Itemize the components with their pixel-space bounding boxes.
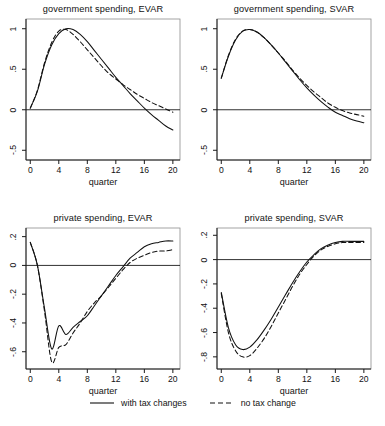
x-tick-label: 4 bbox=[49, 374, 69, 384]
panel-title: government spending, SVAR bbox=[217, 4, 371, 14]
y-tick-label: -.2 bbox=[198, 275, 210, 293]
legend-swatch-solid-icon bbox=[89, 399, 115, 407]
chart-panel-2: government spending, SVAR-.50.5104812162… bbox=[0, 0, 385, 426]
y-tick-label: 0 bbox=[7, 256, 19, 274]
y-tick-label: -.4 bbox=[7, 314, 19, 332]
x-tick-label: 0 bbox=[20, 165, 40, 175]
legend-entry-dashed: no tax change bbox=[209, 398, 296, 408]
y-tick-label: -.5 bbox=[198, 141, 210, 159]
plot-frame bbox=[26, 228, 180, 369]
x-tick-label: 12 bbox=[106, 165, 126, 175]
impulse-response-figure: government spending, EVAR-.50.5104812162… bbox=[0, 0, 385, 426]
series-line-dashed bbox=[221, 242, 364, 357]
y-tick-label: .5 bbox=[198, 60, 210, 78]
panel-plot-area bbox=[0, 0, 385, 426]
series-line-solid bbox=[221, 29, 364, 122]
chart-panel-1: government spending, EVAR-.50.5104812162… bbox=[0, 0, 385, 426]
x-tick-label: 12 bbox=[106, 374, 126, 384]
x-tick-label: 8 bbox=[268, 165, 288, 175]
panel-title: government spending, EVAR bbox=[26, 4, 180, 14]
x-axis-label: quarter bbox=[26, 386, 180, 396]
panel-title: private spending, SVAR bbox=[217, 213, 371, 223]
legend-label-solid: with tax changes bbox=[121, 398, 187, 408]
x-tick-label: 0 bbox=[20, 374, 40, 384]
x-tick-label: 4 bbox=[240, 165, 260, 175]
y-tick-label: .2 bbox=[198, 226, 210, 244]
y-tick-label: -.6 bbox=[7, 343, 19, 361]
y-tick-label: 1 bbox=[198, 20, 210, 38]
plot-frame bbox=[26, 19, 180, 160]
legend-label-dashed: no tax change bbox=[241, 398, 296, 408]
y-tick-label: -.8 bbox=[198, 348, 210, 366]
panel-title: private spending, EVAR bbox=[26, 213, 180, 223]
series-line-dashed bbox=[30, 242, 173, 363]
panel-plot-area bbox=[0, 0, 385, 426]
y-tick-label: 1 bbox=[7, 20, 19, 38]
panel-plot-area bbox=[0, 0, 385, 426]
x-tick-label: 0 bbox=[211, 374, 231, 384]
x-tick-label: 12 bbox=[297, 374, 317, 384]
x-axis-label: quarter bbox=[217, 386, 371, 396]
x-tick-label: 16 bbox=[134, 374, 154, 384]
x-tick-label: 20 bbox=[354, 374, 374, 384]
y-tick-label: 0 bbox=[198, 251, 210, 269]
x-tick-label: 8 bbox=[268, 374, 288, 384]
plot-frame bbox=[217, 228, 371, 369]
y-tick-label: -.6 bbox=[198, 324, 210, 342]
x-tick-label: 20 bbox=[163, 165, 183, 175]
figure-legend: with tax changes no tax change bbox=[0, 398, 385, 408]
y-tick-label: -.2 bbox=[7, 285, 19, 303]
x-tick-label: 8 bbox=[77, 165, 97, 175]
x-axis-label: quarter bbox=[217, 177, 371, 187]
y-tick-label: 0 bbox=[198, 101, 210, 119]
x-tick-label: 16 bbox=[325, 374, 345, 384]
legend-swatch-dashed-icon bbox=[209, 399, 235, 407]
series-line-solid bbox=[221, 241, 364, 349]
series-line-solid bbox=[30, 28, 173, 130]
x-tick-label: 12 bbox=[297, 165, 317, 175]
x-tick-label: 20 bbox=[163, 374, 183, 384]
y-tick-label: -.5 bbox=[7, 141, 19, 159]
x-tick-label: 4 bbox=[49, 165, 69, 175]
series-line-dashed bbox=[30, 29, 173, 112]
y-tick-label: .2 bbox=[7, 228, 19, 246]
x-tick-label: 16 bbox=[134, 165, 154, 175]
x-tick-label: 20 bbox=[354, 165, 374, 175]
x-tick-label: 0 bbox=[211, 165, 231, 175]
chart-panel-4: private spending, SVAR-.8-.6-.4-.20.2048… bbox=[0, 0, 385, 426]
chart-panel-3: private spending, EVAR-.6-.4-.20.2048121… bbox=[0, 0, 385, 426]
y-tick-label: .5 bbox=[7, 60, 19, 78]
x-tick-label: 8 bbox=[77, 374, 97, 384]
series-line-solid bbox=[30, 241, 173, 349]
x-tick-label: 4 bbox=[240, 374, 260, 384]
series-line-dashed bbox=[221, 29, 364, 116]
y-tick-label: 0 bbox=[7, 101, 19, 119]
plot-frame bbox=[217, 19, 371, 160]
x-tick-label: 16 bbox=[325, 165, 345, 175]
panel-plot-area bbox=[0, 0, 385, 426]
legend-entry-solid: with tax changes bbox=[89, 398, 187, 408]
y-tick-label: -.4 bbox=[198, 299, 210, 317]
x-axis-label: quarter bbox=[26, 177, 180, 187]
